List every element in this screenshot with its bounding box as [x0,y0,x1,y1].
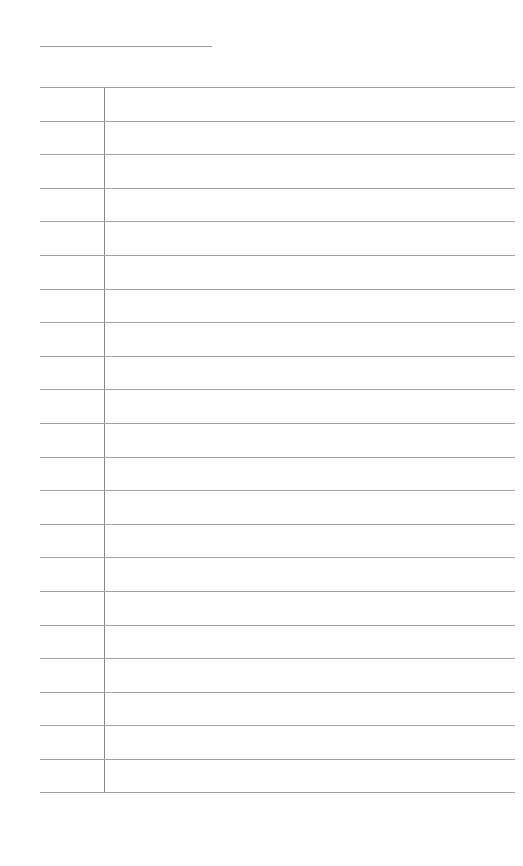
table-row [40,255,515,289]
table-row [40,658,515,692]
table-row [40,188,515,222]
row-entry-cell[interactable] [105,155,515,188]
row-entry-cell[interactable] [105,726,515,759]
row-label-cell[interactable] [40,726,105,759]
row-label-cell[interactable] [40,189,105,222]
table-row [40,524,515,558]
table-row [40,557,515,591]
table-row [40,87,515,121]
row-entry-cell[interactable] [105,626,515,659]
row-label-cell[interactable] [40,290,105,323]
row-entry-cell[interactable] [105,558,515,591]
row-entry-cell[interactable] [105,693,515,726]
row-entry-cell[interactable] [105,323,515,356]
row-entry-cell[interactable] [105,491,515,524]
row-label-cell[interactable] [40,592,105,625]
table-row [40,356,515,390]
table-row [40,625,515,659]
row-label-cell[interactable] [40,693,105,726]
table-row [40,154,515,188]
row-entry-cell[interactable] [105,659,515,692]
row-label-cell[interactable] [40,323,105,356]
row-entry-cell[interactable] [105,222,515,255]
heading-blank-line[interactable] [40,46,212,47]
row-label-cell[interactable] [40,122,105,155]
table-row [40,490,515,524]
table-row [40,423,515,457]
row-label-cell[interactable] [40,88,105,121]
row-label-cell[interactable] [40,424,105,457]
row-label-cell[interactable] [40,222,105,255]
row-entry-cell[interactable] [105,760,515,793]
row-label-cell[interactable] [40,390,105,423]
table-row [40,692,515,726]
row-label-cell[interactable] [40,256,105,289]
row-entry-cell[interactable] [105,525,515,558]
table-row [40,389,515,423]
table-row [40,759,515,794]
table-row [40,591,515,625]
row-label-cell[interactable] [40,491,105,524]
table-row [40,322,515,356]
row-entry-cell[interactable] [105,189,515,222]
table-row [40,121,515,155]
row-entry-cell[interactable] [105,592,515,625]
row-entry-cell[interactable] [105,256,515,289]
row-entry-cell[interactable] [105,390,515,423]
row-label-cell[interactable] [40,659,105,692]
table-row [40,457,515,491]
row-label-cell[interactable] [40,760,105,793]
row-label-cell[interactable] [40,458,105,491]
row-entry-cell[interactable] [105,122,515,155]
row-label-cell[interactable] [40,155,105,188]
table-row [40,221,515,255]
row-entry-cell[interactable] [105,357,515,390]
row-label-cell[interactable] [40,626,105,659]
row-label-cell[interactable] [40,558,105,591]
row-entry-cell[interactable] [105,424,515,457]
ruled-form-table [40,87,515,793]
table-row [40,725,515,759]
row-entry-cell[interactable] [105,88,515,121]
row-entry-cell[interactable] [105,458,515,491]
table-row [40,289,515,323]
row-label-cell[interactable] [40,357,105,390]
row-label-cell[interactable] [40,525,105,558]
row-entry-cell[interactable] [105,290,515,323]
